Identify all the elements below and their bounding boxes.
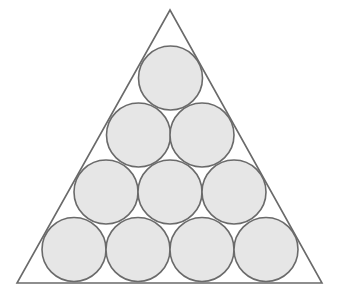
- circle-row4-1: [42, 218, 106, 282]
- circle-row3-3: [202, 160, 266, 224]
- circle-row4-4: [234, 218, 298, 282]
- circle-row3-2: [138, 160, 202, 224]
- circle-row2-2: [170, 103, 234, 167]
- circle-row3-1: [74, 160, 138, 224]
- circles-in-triangle-diagram: [0, 0, 341, 307]
- circle-row1-1: [139, 46, 203, 110]
- circle-row4-2: [106, 218, 170, 282]
- circle-row4-3: [170, 218, 234, 282]
- circle-row2-1: [107, 103, 171, 167]
